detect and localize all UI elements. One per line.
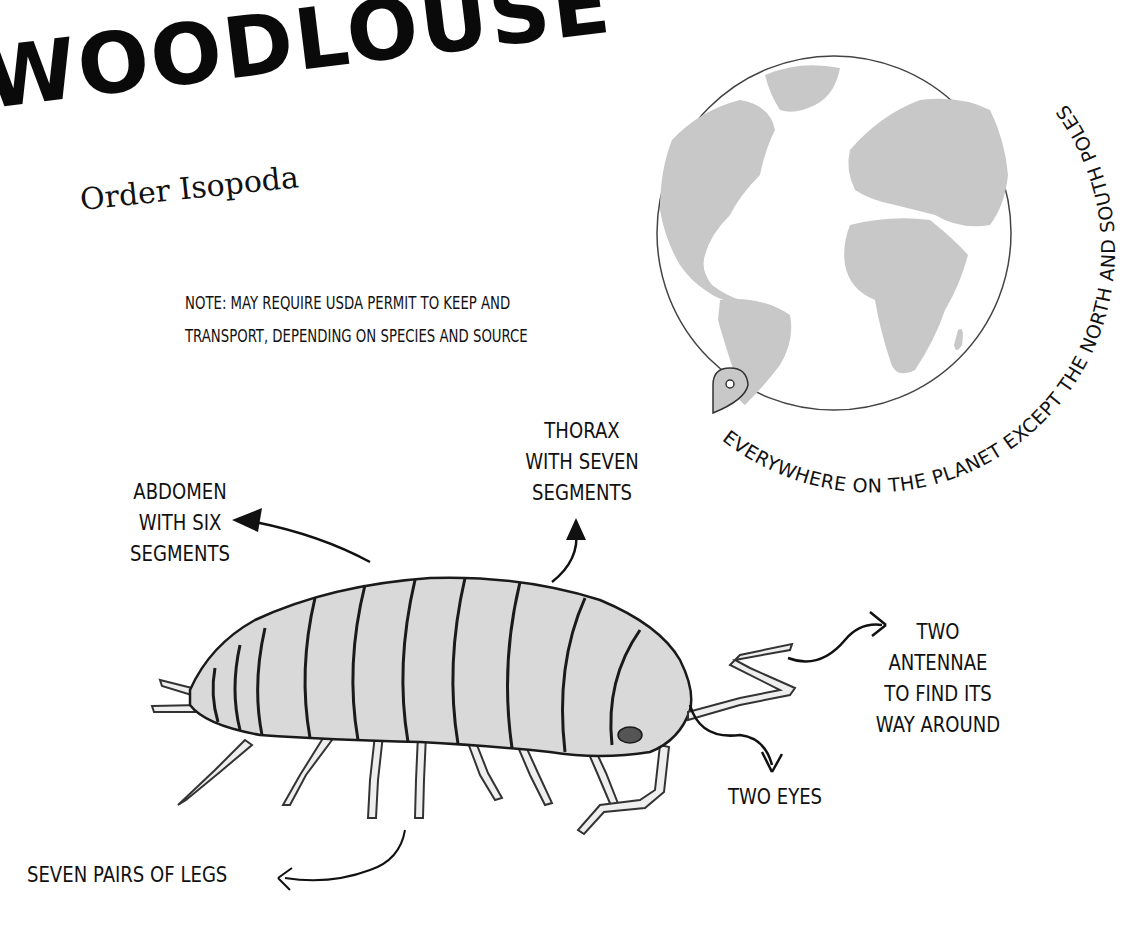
- antenna: [688, 644, 795, 720]
- woodlouse-body: [190, 578, 691, 756]
- legs-arrow: [285, 830, 405, 880]
- antennae-arrow: [788, 625, 882, 662]
- abdomen-arrow: [255, 522, 370, 562]
- label-eyes: TWO EYES: [715, 782, 835, 813]
- label-legs: SEVEN PAIRS OF LEGS: [27, 860, 227, 891]
- label-abdomen: ABDOMEN WITH SIX SEGMENTS: [116, 477, 245, 570]
- label-thorax: THORAX WITH SEVEN SEGMENTS: [509, 416, 655, 509]
- label-antennae: TWO ANTENNAE TO FIND ITS WAY AROUND: [869, 617, 1007, 741]
